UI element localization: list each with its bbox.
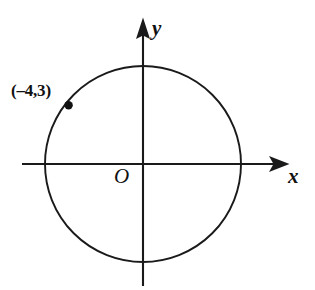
coordinate-plane-diagram [0, 0, 315, 290]
y-axis-label: y [152, 18, 161, 39]
origin-label: O [114, 166, 129, 187]
x-axis-label: x [288, 166, 299, 187]
figure-canvas: y x O (–4,3) [0, 0, 315, 290]
plotted-point-marker [64, 101, 72, 109]
point-coordinate-label: (–4,3) [11, 82, 51, 99]
